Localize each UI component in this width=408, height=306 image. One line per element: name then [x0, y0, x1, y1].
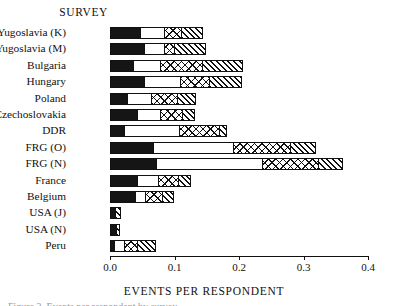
- bar-segment-segment-1: [110, 158, 156, 170]
- bar-segment-segment-4: [115, 207, 121, 219]
- chart-row: Hungary: [110, 75, 372, 89]
- plot-area: Yugoslavia (K)Yugoslavia (M)BulgariaHung…: [110, 26, 372, 256]
- bar-segment-segment-3: [180, 76, 210, 88]
- bar-segment-segment-2: [127, 93, 150, 105]
- bar-segment-segment-4: [182, 109, 196, 121]
- x-axis-title: EVENTS PER RESPONDENT: [0, 285, 408, 297]
- bar-segment-segment-2: [144, 43, 164, 55]
- bar-segment-segment-1: [110, 191, 135, 203]
- category-label: FRG (N): [0, 157, 66, 170]
- bar-segment-segment-2: [137, 109, 160, 121]
- bar-segment-segment-2: [124, 125, 179, 137]
- x-axis-tick-label: 0.1: [155, 261, 195, 273]
- chart-row: USA (N): [110, 223, 372, 237]
- stacked-bar: [110, 142, 316, 154]
- x-axis-tick: [239, 256, 240, 260]
- bar-segment-segment-3: [151, 93, 177, 105]
- stacked-bar: [110, 207, 121, 219]
- category-label: Poland: [0, 92, 66, 105]
- bar-segment-segment-1: [110, 175, 137, 187]
- category-label: Peru: [0, 239, 66, 252]
- bar-segment-segment-4: [290, 142, 316, 154]
- stacked-bar: [110, 240, 156, 252]
- bar-segment-segment-1: [110, 93, 127, 105]
- chart-row: USA (J): [110, 206, 372, 220]
- bar-segment-segment-3: [164, 27, 181, 39]
- chart-row: Yugoslavia (M): [110, 42, 372, 56]
- x-axis-tick-label: 0.4: [348, 261, 388, 273]
- bar-segment-segment-3: [164, 43, 174, 55]
- category-label: Hungary: [0, 75, 66, 88]
- bar-segment-segment-4: [116, 224, 121, 236]
- bar-segment-segment-3: [158, 175, 178, 187]
- bar-segment-segment-4: [162, 191, 174, 203]
- category-label: Czechoslovakia: [0, 108, 66, 121]
- x-axis-tick: [368, 256, 369, 260]
- x-axis-tick: [304, 256, 305, 260]
- chart-row: France: [110, 174, 372, 188]
- chart-row: Bulgaria: [110, 59, 372, 73]
- chart-row: Czechoslovakia: [110, 108, 372, 122]
- bar-segment-segment-2: [156, 158, 261, 170]
- stacked-bar: [110, 224, 120, 236]
- bar-segment-segment-1: [110, 43, 144, 55]
- x-axis-tick-label: 0.2: [219, 261, 259, 273]
- bar-segment-segment-2: [144, 76, 179, 88]
- bar-segment-segment-2: [135, 191, 145, 203]
- chart-row: Yugoslavia (K): [110, 26, 372, 40]
- bar-segment-segment-3: [145, 191, 161, 203]
- category-label: Belgium: [0, 190, 66, 203]
- chart-row: DDR: [110, 124, 372, 138]
- bar-segment-segment-4: [209, 76, 241, 88]
- chart-row: Peru: [110, 239, 372, 253]
- stacked-bar: [110, 27, 203, 39]
- bar-segment-segment-4: [174, 43, 206, 55]
- x-axis-tick: [175, 256, 176, 260]
- bar-segment-segment-1: [110, 27, 140, 39]
- category-label: DDR: [0, 124, 66, 137]
- bar-segment-segment-2: [114, 240, 124, 252]
- bar-segment-segment-3: [233, 142, 290, 154]
- x-axis-tick: [110, 256, 111, 260]
- bar-segment-segment-3: [160, 60, 202, 72]
- figure-caption-sliver: Figure 3. Events per respondent by surve…: [8, 301, 400, 306]
- stacked-bar-chart-figure: SURVEY Yugoslavia (K)Yugoslavia (M)Bulga…: [0, 0, 408, 306]
- bar-segment-segment-3: [262, 158, 318, 170]
- bar-segment-segment-3: [179, 125, 219, 137]
- category-label: USA (N): [0, 223, 66, 236]
- bar-segment-segment-4: [202, 60, 243, 72]
- x-axis-tick-label: 0.3: [284, 261, 324, 273]
- category-label: Yugoslavia (K): [0, 26, 66, 39]
- stacked-bar: [110, 43, 206, 55]
- bar-segment-segment-4: [181, 27, 203, 39]
- stacked-bar: [110, 109, 195, 121]
- bar-segment-segment-2: [133, 60, 160, 72]
- category-label: Yugoslavia (M): [0, 42, 66, 55]
- category-label: FRG (O): [0, 141, 66, 154]
- bar-segment-segment-4: [137, 240, 156, 252]
- bar-segment-segment-1: [110, 125, 124, 137]
- stacked-bar: [110, 76, 242, 88]
- bar-segment-segment-2: [140, 27, 163, 39]
- stacked-bar: [110, 125, 227, 137]
- bar-segment-segment-1: [110, 60, 133, 72]
- bar-segment-segment-2: [137, 175, 158, 187]
- chart-row: FRG (N): [110, 157, 372, 171]
- chart-row: FRG (O): [110, 141, 372, 155]
- stacked-bar: [110, 60, 243, 72]
- bar-segment-segment-4: [178, 175, 191, 187]
- bar-segment-segment-1: [110, 76, 144, 88]
- category-label: France: [0, 174, 66, 187]
- bar-segment-segment-1: [110, 142, 153, 154]
- stacked-bar: [110, 175, 191, 187]
- survey-heading: SURVEY: [0, 6, 108, 18]
- chart-row: Belgium: [110, 190, 372, 204]
- category-label: USA (J): [0, 206, 66, 219]
- bar-segment-segment-4: [318, 158, 344, 170]
- stacked-bar: [110, 158, 343, 170]
- bar-segment-segment-1: [110, 109, 137, 121]
- x-axis-tick-label: 0.0: [90, 261, 130, 273]
- category-label: Bulgaria: [0, 59, 66, 72]
- bar-segment-segment-4: [177, 93, 196, 105]
- bar-segment-segment-3: [124, 240, 137, 252]
